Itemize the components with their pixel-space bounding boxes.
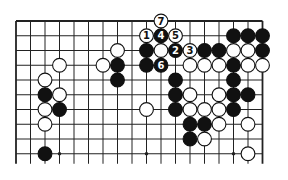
stone-disc [198,117,212,131]
white-stone [212,58,226,72]
white-stone-move-5: 5 [169,29,183,43]
stone-disc [227,44,241,58]
stone-disc [169,73,183,87]
stone-disc [227,29,241,43]
stone-disc [256,29,270,43]
white-stone [198,132,212,146]
white-stone [212,103,226,117]
white-stone [183,58,197,72]
stone-disc [140,58,154,72]
white-stone [38,73,52,87]
stone-disc [241,29,255,43]
stone-disc [227,73,241,87]
move-number-label: 5 [172,30,179,41]
stone-disc [140,103,154,117]
black-stone-move-2: 2 [169,44,183,58]
black-stone [111,58,125,72]
black-stone [140,58,154,72]
stone-disc [256,58,270,72]
black-stone [53,103,67,117]
stone-disc [38,117,52,131]
white-stone [198,58,212,72]
stone-disc [53,58,67,72]
stone-disc [169,88,183,102]
white-stone [212,117,226,131]
white-stone [256,58,270,72]
stone-disc [212,103,226,117]
stone-disc [256,44,270,58]
stone-disc [38,88,52,102]
white-stone [38,117,52,131]
stone-disc [96,58,110,72]
black-stone [256,29,270,43]
move-number-label: 4 [158,30,165,41]
stone-disc [241,58,255,72]
stone-disc [227,58,241,72]
stone-disc [111,73,125,87]
star-point [232,152,236,156]
black-stone [256,44,270,58]
stone-disc [212,58,226,72]
white-stone [183,103,197,117]
stone-disc [212,88,226,102]
white-stone-move-1: 1 [140,29,154,43]
stone-disc [241,117,255,131]
white-stone [140,103,154,117]
stone-disc [53,103,67,117]
white-stone [212,88,226,102]
stone-disc [38,147,52,161]
stone-disc [53,88,67,102]
stone-disc [111,58,125,72]
stone-disc [198,132,212,146]
go-board-diagram: 7145236 [0,0,288,180]
black-stone [241,88,255,102]
white-stone [241,147,255,161]
stone-disc [183,103,197,117]
stone-disc [183,132,197,146]
white-stone [154,44,168,58]
black-stone-move-6: 6 [154,58,168,72]
move-number-label: 2 [172,45,179,56]
black-stone [38,88,52,102]
white-stone [241,117,255,131]
white-stone [241,58,255,72]
stone-disc [198,58,212,72]
white-stone [111,44,125,58]
stone-disc [241,44,255,58]
move-number-label: 6 [158,60,165,71]
white-stone [96,58,110,72]
black-stone [169,88,183,102]
black-stone [227,29,241,43]
stone-disc [227,103,241,117]
white-stone-move-7: 7 [154,14,168,28]
black-stone [140,44,154,58]
board-canvas: 7145236 [0,0,288,180]
black-stone [183,117,197,131]
black-stone [38,147,52,161]
stone-disc [212,117,226,131]
black-stone [169,103,183,117]
stone-disc [38,103,52,117]
white-stone [183,88,197,102]
star-point [58,152,62,156]
white-stone [53,58,67,72]
white-stone [38,103,52,117]
black-stone [227,103,241,117]
stone-disc [38,73,52,87]
stone-disc [111,44,125,58]
black-stone [227,88,241,102]
white-stone [198,103,212,117]
stone-disc [169,103,183,117]
black-stone [169,73,183,87]
black-stone [198,117,212,131]
stone-disc [198,44,212,58]
stone-disc [241,88,255,102]
stone-disc [183,88,197,102]
move-number-label: 3 [187,45,194,56]
white-stone [227,44,241,58]
stone-disc [227,88,241,102]
black-stone [183,132,197,146]
stone-disc [154,44,168,58]
star-point [145,152,149,156]
black-stone [198,44,212,58]
